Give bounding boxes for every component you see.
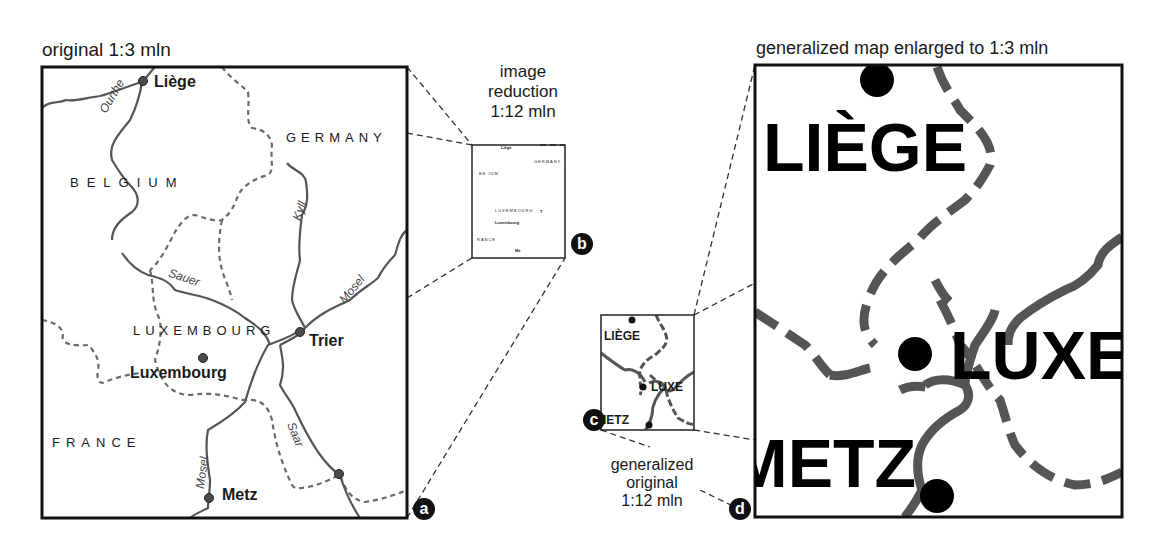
label-river-sauer: Sauer xyxy=(166,263,203,292)
caption-reduction-line2: reduction xyxy=(478,82,568,102)
caption-reduction-line3: 1:12 mln xyxy=(478,102,568,122)
reduced-map-labels: Liège GERMANY BE IUM LUXEMBOURG T Luxemb… xyxy=(472,145,565,258)
gen-large-label-luxe: LUXE xyxy=(950,315,1122,395)
reduced-label-luxembourg: LUXEMBOURG xyxy=(495,208,533,214)
gen-small-label-metz: IETZ xyxy=(603,413,629,427)
marker-a: a xyxy=(413,498,435,520)
label-trier: Trier xyxy=(309,331,344,351)
label-river-ourthe: Ourthe xyxy=(94,75,130,117)
caption-gen-line2: original xyxy=(600,474,704,492)
generalized-large-labels: LIÈGE LUXE METZ xyxy=(755,65,1122,517)
label-germany: GERMANY xyxy=(286,128,387,148)
label-river-saar: Saar xyxy=(281,419,309,450)
reduced-label-luxembourg-city: Luxembourg xyxy=(495,220,519,226)
connector-lines xyxy=(407,65,755,518)
caption-reduction-line1: image xyxy=(478,62,568,82)
reduced-label-trier: T xyxy=(540,209,542,215)
caption-gen-line1: generalized xyxy=(600,456,704,474)
marker-b: b xyxy=(571,233,593,255)
caption-original: original 1:3 mln xyxy=(42,40,171,60)
gen-small-label-luxe: LUXE xyxy=(651,380,683,394)
reduced-label-metz: Me xyxy=(515,248,521,254)
gen-large-label-liege: LIÈGE xyxy=(763,107,967,187)
reduced-label-germany: GERMANY xyxy=(534,159,561,165)
gen-large-label-metz: METZ xyxy=(755,423,916,503)
label-belgium: BELGIUM xyxy=(70,173,185,193)
label-liege: Liège xyxy=(154,72,196,92)
label-luxembourg-country: LUXEMBOURG xyxy=(133,321,275,341)
label-metz: Metz xyxy=(222,485,258,505)
label-river-mosel-north: Mosel xyxy=(334,270,370,307)
generalized-small-labels: LIÈGE LUXE IETZ xyxy=(601,315,694,430)
gen-small-label-liege: LIÈGE xyxy=(604,329,640,343)
caption-enlarged: generalized map enlarged to 1:3 mln xyxy=(756,38,1048,58)
caption-generalized-original: generalized original 1:12 mln xyxy=(600,456,704,510)
label-river-mosel-south: Mosel xyxy=(190,455,214,489)
reduced-label-belgium: BE IUM xyxy=(479,171,499,177)
label-luxembourg-city: Luxembourg xyxy=(130,363,227,383)
original-map-labels: GERMANY BELGIUM LUXEMBOURG FRANCE Liège … xyxy=(42,67,407,518)
label-river-kyll: Kyll xyxy=(287,199,312,224)
marker-d: d xyxy=(729,498,751,520)
label-france: FRANCE xyxy=(52,433,141,453)
caption-reduction: image reduction 1:12 mln xyxy=(478,62,568,122)
caption-gen-line3: 1:12 mln xyxy=(600,492,704,510)
reduced-label-liege: Liège xyxy=(501,145,511,151)
reduced-label-france: RANCE xyxy=(477,237,496,243)
